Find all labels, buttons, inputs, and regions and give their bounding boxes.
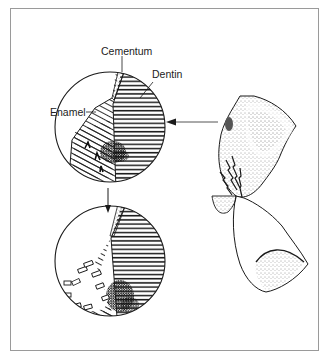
arrow-down-icon (105, 188, 111, 213)
tooth-illustration (212, 96, 308, 292)
dental-diagram (0, 0, 331, 361)
gum-spot (225, 117, 233, 131)
label-enamel: Enamel (50, 107, 86, 118)
label-cementum: Cementum (101, 46, 152, 57)
arrow-left-icon (166, 119, 218, 126)
label-dentin: Dentin (152, 69, 182, 80)
magnified-circle-bottom (55, 195, 170, 330)
